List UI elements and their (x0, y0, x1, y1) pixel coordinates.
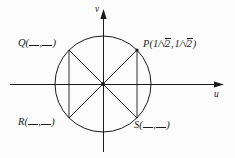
blank-coord-x (29, 38, 39, 46)
v-axis-arrowhead (100, 9, 106, 19)
close-paren: ) (166, 119, 170, 130)
close-paren: ) (52, 37, 56, 48)
point-marker-p (135, 48, 138, 51)
v-axis-label: v (95, 5, 99, 15)
radical-sign: √ (161, 38, 167, 49)
blank-coord-x (28, 117, 38, 125)
point-label-q: Q(,) (18, 38, 56, 49)
sqrt-two: √2 (162, 38, 171, 50)
point-label-p: P(1/√2, 1/√2) (143, 38, 196, 50)
unit-circle-figure: Q(,) P(1/√2, 1/√2) R(,) S(,) v u (0, 0, 235, 158)
point-q-prefix: Q (18, 37, 26, 48)
point-marker-origin (101, 82, 105, 86)
u-axis-label: u (214, 90, 219, 100)
blank-coord-y (156, 120, 166, 128)
figure-canvas (0, 0, 235, 158)
blank-coord-x (143, 120, 153, 128)
blank-coord-y (42, 38, 52, 46)
blank-coord-y (41, 117, 51, 125)
radical-sign: √ (182, 38, 188, 49)
sqrt-two: √2 (183, 38, 192, 50)
point-label-s: S(,) (134, 120, 170, 131)
u-axis-arrowhead (214, 81, 224, 87)
close-paren: ) (51, 116, 55, 127)
point-label-r: R(,) (18, 117, 55, 128)
close-paren: ) (193, 38, 197, 49)
comma: , (171, 38, 174, 49)
